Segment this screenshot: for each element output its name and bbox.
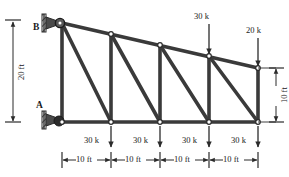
- support-label-a: A: [36, 101, 43, 111]
- joint: [109, 120, 114, 125]
- dimension-label-right-10ft: 10 ft: [280, 87, 289, 103]
- joint: [207, 54, 212, 59]
- joint: [109, 32, 114, 37]
- joint: [207, 120, 212, 125]
- truss-diagram: B A 20 ft 10 ft 30 k 20 k 30 k 30 k 30 k…: [0, 0, 289, 177]
- truss-joints: [109, 32, 261, 125]
- dimension-label-10ft: 10 ft: [76, 155, 92, 164]
- truss-members: [62, 23, 258, 122]
- dimension-label-20ft: 20 ft: [17, 64, 26, 80]
- load-label-30k-bottom: 30 k: [231, 136, 246, 145]
- load-label-30k-bottom: 30 k: [182, 136, 197, 145]
- load-label-20k-top: 20 k: [246, 26, 261, 35]
- joint: [158, 43, 163, 48]
- dimension-label-10ft: 10 ft: [223, 155, 239, 164]
- diagonal-member: [111, 34, 160, 122]
- dimension-label-10ft: 10 ft: [174, 155, 190, 164]
- load-label-30k-top: 30 k: [194, 12, 209, 21]
- dimension-label-10ft: 10 ft: [125, 155, 141, 164]
- load-label-30k-bottom: 30 k: [133, 136, 148, 145]
- load-label-30k-bottom: 30 k: [84, 136, 99, 145]
- support-label-b: B: [33, 23, 39, 33]
- joint: [158, 120, 163, 125]
- diagonal-member: [62, 23, 111, 122]
